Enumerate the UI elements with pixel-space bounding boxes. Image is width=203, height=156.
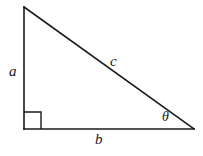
right-angle-marker (24, 112, 41, 129)
label-side-a: a (9, 64, 17, 79)
label-angle-theta: θ (162, 110, 169, 124)
label-side-b: b (95, 132, 103, 147)
label-side-c: c (110, 54, 117, 69)
right-triangle-figure: a b c θ (0, 0, 203, 156)
